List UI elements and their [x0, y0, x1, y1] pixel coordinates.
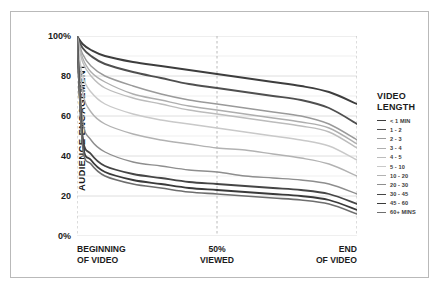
x-tick-label: 50%VIEWED	[200, 244, 234, 266]
series-line	[77, 36, 357, 124]
y-tick-label: 100%	[37, 31, 71, 41]
legend-swatch-icon	[377, 157, 386, 158]
legend-item-label: 1 - 2	[390, 127, 402, 133]
legend-item[interactable]: 45 - 60	[377, 199, 439, 208]
legend-item-label: 5 - 10	[390, 164, 405, 170]
legend-item-label: 10 - 20	[390, 173, 408, 179]
legend-item-label: 45 - 60	[390, 200, 408, 206]
legend-item[interactable]: 20 - 30	[377, 180, 439, 189]
x-tick-label-line2: VIEWED	[200, 255, 234, 266]
legend: VIDEO LENGTH < 1 MIN1 - 22 - 33 - 44 - 5…	[377, 91, 439, 217]
x-tick-label-line1: BEGINNING	[77, 244, 126, 255]
legend-swatch-icon	[377, 129, 386, 130]
x-tick-label-line2: OF VIDEO	[316, 255, 357, 266]
plot-lines	[77, 36, 357, 236]
legend-item[interactable]: 2 - 3	[377, 134, 439, 143]
legend-item[interactable]: 3 - 4	[377, 144, 439, 153]
legend-title: VIDEO LENGTH	[377, 91, 439, 112]
legend-swatch-icon	[377, 120, 386, 121]
x-tick-label: ENDOF VIDEO	[316, 244, 357, 266]
x-tick-label: BEGINNINGOF VIDEO	[77, 244, 126, 266]
legend-swatch-icon	[377, 138, 386, 139]
y-tick-label: 0%	[37, 231, 71, 241]
legend-item-label: 60+ MINS	[390, 209, 416, 215]
legend-swatch-icon	[377, 194, 386, 195]
legend-item-label: < 1 MIN	[390, 118, 410, 124]
legend-swatch-icon	[377, 203, 386, 204]
legend-item[interactable]: 10 - 20	[377, 171, 439, 180]
retention-chart-figure: AUDIENCE ENGAGEMENT 100%806040200% BEGIN…	[0, 0, 442, 296]
legend-item[interactable]: 60+ MINS	[377, 208, 439, 217]
legend-swatch-icon	[377, 212, 386, 213]
plot-area: AUDIENCE ENGAGEMENT 100%806040200% BEGIN…	[77, 36, 357, 236]
legend-item[interactable]: 5 - 10	[377, 162, 439, 171]
x-tick-label-line1: END	[316, 244, 357, 255]
chart-frame: AUDIENCE ENGAGEMENT 100%806040200% BEGIN…	[10, 11, 429, 278]
legend-swatch-icon	[377, 166, 386, 167]
legend-title-line1: VIDEO	[377, 91, 439, 102]
legend-item[interactable]: 4 - 5	[377, 153, 439, 162]
legend-item[interactable]: 30 - 45	[377, 190, 439, 199]
legend-item-label: 3 - 4	[390, 145, 402, 151]
y-tick-label: 60	[37, 111, 71, 121]
y-tick-label: 80	[37, 71, 71, 81]
legend-item-label: 30 - 45	[390, 191, 408, 197]
legend-swatch-icon	[377, 184, 386, 185]
legend-title-line2: LENGTH	[377, 102, 439, 113]
legend-rows: < 1 MIN1 - 22 - 33 - 44 - 55 - 1010 - 20…	[377, 116, 439, 217]
legend-item-label: 2 - 3	[390, 136, 402, 142]
y-tick-label: 40	[37, 151, 71, 161]
legend-item-label: 4 - 5	[390, 154, 402, 160]
legend-item[interactable]: 1 - 2	[377, 125, 439, 134]
legend-swatch-icon	[377, 175, 386, 176]
legend-swatch-icon	[377, 148, 386, 149]
legend-item[interactable]: < 1 MIN	[377, 116, 439, 125]
legend-item-label: 20 - 30	[390, 182, 408, 188]
x-tick-label-line1: 50%	[200, 244, 234, 255]
x-tick-label-line2: OF VIDEO	[77, 255, 126, 266]
y-tick-label: 20	[37, 191, 71, 201]
